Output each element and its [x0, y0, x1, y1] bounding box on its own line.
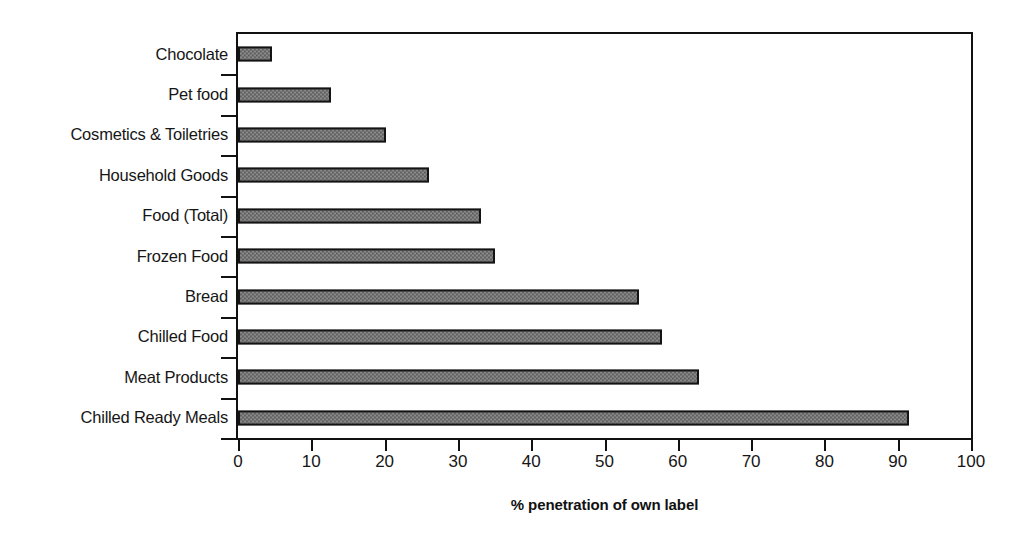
category-label: Chilled Ready Meals [80, 398, 228, 438]
value-axis-tick [458, 440, 460, 451]
value-axis-tick [531, 440, 533, 451]
category-axis-tick [221, 74, 236, 76]
value-axis-tick [311, 440, 313, 451]
category-axis-tick [221, 317, 236, 319]
value-axis-tick-label: 10 [302, 452, 321, 472]
category-label: Pet food [168, 74, 228, 114]
category-label: Frozen Food [137, 236, 228, 276]
bar-row [238, 398, 971, 438]
category-axis-tick [221, 398, 236, 400]
bar [238, 289, 639, 304]
category-label: Bread [185, 276, 228, 316]
bar [238, 410, 909, 425]
bar-row [238, 155, 971, 195]
category-axis-tick [221, 236, 236, 238]
category-axis-tick [221, 155, 236, 157]
value-axis-tick-label: 70 [742, 452, 761, 472]
category-axis-tick [221, 115, 236, 117]
bar [238, 47, 272, 62]
bar [238, 249, 495, 264]
category-axis-labels: ChocolatePet foodCosmetics & ToiletriesH… [0, 34, 228, 438]
value-axis-tick-label: 30 [448, 452, 467, 472]
category-label: Household Goods [99, 155, 228, 195]
bar-row [238, 317, 971, 357]
value-axis-tick-label: 90 [888, 452, 907, 472]
bar [238, 329, 662, 344]
bar-row [238, 34, 971, 74]
category-label: Meat Products [124, 357, 228, 397]
value-axis-tick-label: 100 [957, 452, 985, 472]
bar-row [238, 74, 971, 114]
category-label: Food (Total) [142, 196, 228, 236]
category-axis-tick [221, 438, 236, 440]
bar-row [238, 196, 971, 236]
value-axis-tick [605, 440, 607, 451]
value-axis-tick-label: 60 [668, 452, 687, 472]
bars-container [238, 34, 971, 438]
bar-row [238, 236, 971, 276]
bar-row [238, 115, 971, 155]
category-label: Cosmetics & Toiletries [70, 115, 228, 155]
bar [238, 370, 699, 385]
value-axis-tick-label: 0 [233, 452, 242, 472]
value-axis-tick [238, 440, 240, 451]
bar-row [238, 276, 971, 316]
value-axis-tick-label: 50 [595, 452, 614, 472]
value-axis-tick [898, 440, 900, 451]
bar [238, 87, 331, 102]
value-axis-tick-label: 40 [522, 452, 541, 472]
value-axis-tick [751, 440, 753, 451]
category-axis-tick [221, 196, 236, 198]
value-axis-tick [678, 440, 680, 451]
bar [238, 208, 481, 223]
value-axis-tick-label: 80 [815, 452, 834, 472]
category-axis-tick [221, 276, 236, 278]
bar-chart: ChocolatePet foodCosmetics & ToiletriesH… [0, 0, 1034, 552]
category-label: Chocolate [156, 34, 229, 74]
value-axis-tick [824, 440, 826, 451]
value-axis-tick [971, 440, 973, 451]
category-label: Chilled Food [138, 317, 228, 357]
bar [238, 127, 386, 142]
bar-row [238, 357, 971, 397]
value-axis-tick [385, 440, 387, 451]
x-axis-title: % penetration of own label [236, 496, 973, 513]
value-axis-tick-label: 20 [375, 452, 394, 472]
bar [238, 168, 429, 183]
category-axis-tick [221, 357, 236, 359]
